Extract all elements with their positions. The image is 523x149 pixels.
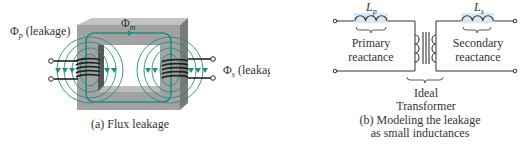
primary-terminal-bottom xyxy=(49,77,54,82)
secondary-leakage-inductor xyxy=(461,13,494,23)
figure-b-caption-line1: (b) Modeling the leakage xyxy=(360,113,481,127)
primary-leakage-inductor xyxy=(354,13,388,23)
ideal-transformer-line1: Ideal xyxy=(414,86,439,100)
flux-leakage-diagram: Φp(leakage) Φm Φs(leakage) (a) Flux leak… xyxy=(0,0,270,149)
secondary-reactance-line2: reactance xyxy=(455,50,500,64)
lp-label: Lp xyxy=(365,0,377,16)
leakage-model-figure: Lp Ls Primary reactance Secondary reacta… xyxy=(280,0,523,149)
secondary-terminal-top xyxy=(211,57,216,62)
secondary-terminal-bottom xyxy=(211,76,216,81)
figure-a-caption: (a) Flux leakage xyxy=(91,117,169,131)
ideal-transformer-line2: Transformer xyxy=(396,99,456,113)
figure-b-caption-line2: as small inductances xyxy=(371,126,470,140)
primary-reactance-line2: reactance xyxy=(348,50,393,64)
primary-terminal-top xyxy=(49,59,54,64)
primary-leakage-label: Φp(leakage) xyxy=(10,24,70,40)
primary-reactance-line1: Primary xyxy=(352,36,391,50)
ls-label: Ls xyxy=(473,0,484,16)
ideal-transformer-symbol xyxy=(415,32,436,64)
flux-leakage-figure: Φp(leakage) Φm Φs(leakage) (a) Flux leak… xyxy=(0,0,270,149)
secondary-leakage-label: Φs(leakage) xyxy=(223,63,270,79)
leakage-model-circuit: Lp Ls Primary reactance Secondary reacta… xyxy=(280,0,523,149)
secondary-reactance-line1: Secondary xyxy=(453,36,504,50)
